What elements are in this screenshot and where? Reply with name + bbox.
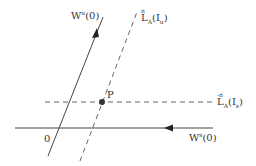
label-arg-close: ) [164, 12, 168, 23]
stable-arrow-icon [164, 125, 173, 132]
intersection-point [99, 99, 105, 105]
label-over: n [141, 6, 145, 16]
point-p-label: P [107, 90, 114, 100]
label-arg-open: (I [152, 12, 160, 23]
origin-label: 0 [44, 134, 50, 144]
unstable-manifold-line [48, 17, 103, 156]
diagram-canvas: Wu(0) nLA(Iu) -nLA(Is) Ws(0) P 0 [0, 0, 256, 166]
forward-image-dashed-line [80, 12, 137, 161]
forward-image-label: nLA(Iu) [141, 13, 168, 24]
unstable-manifold-label: Wu(0) [71, 11, 99, 22]
label-arg-open: (I [228, 96, 236, 107]
label-over: -n [217, 90, 223, 100]
label-base: W [71, 10, 81, 21]
label-arg: (0) [85, 10, 99, 21]
label-sup: s [199, 131, 202, 138]
label-arg-sub: u [160, 18, 164, 25]
label-sub: A [148, 18, 152, 25]
label-sub: A [224, 102, 228, 109]
stable-manifold-label: Ws(0) [189, 133, 217, 144]
backward-image-label: -nLA(Is) [217, 97, 243, 108]
label-arg-sub: s [236, 102, 239, 109]
label-arg: (0) [202, 132, 216, 143]
label-sup: u [81, 9, 85, 16]
diagram-svg [0, 0, 256, 166]
label-arg-close: ) [239, 96, 243, 107]
label-base: W [189, 132, 199, 143]
